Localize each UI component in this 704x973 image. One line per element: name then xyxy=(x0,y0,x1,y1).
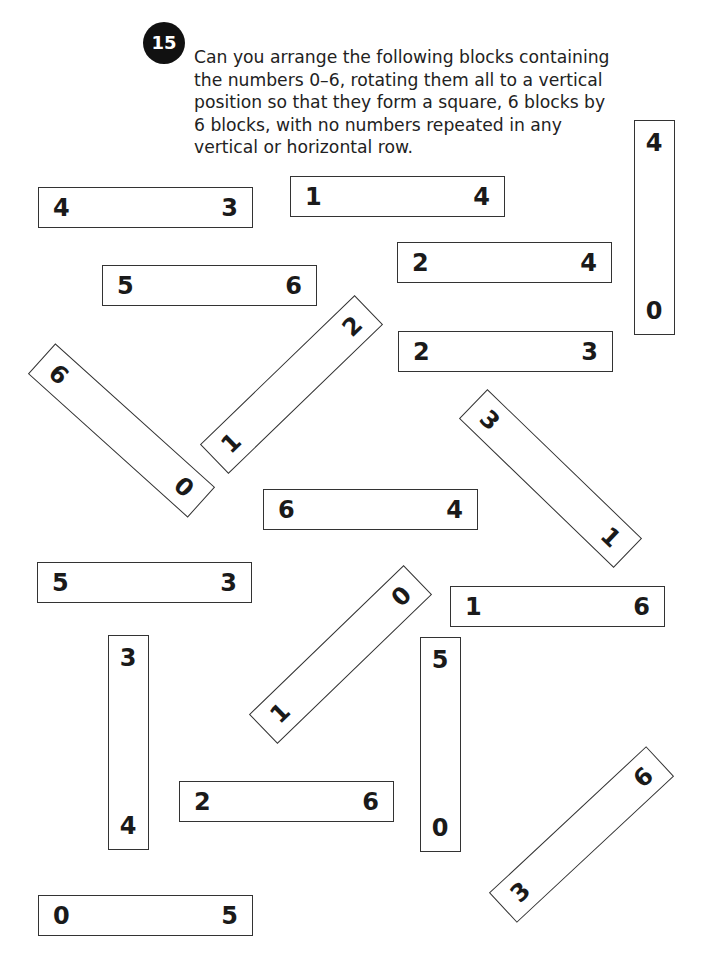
block-number: 0 xyxy=(387,582,416,611)
number-block[interactable]: 3 1 xyxy=(459,389,642,568)
number-block[interactable]: 5 6 xyxy=(102,265,317,306)
block-number: 2 xyxy=(412,251,429,275)
block-number: 2 xyxy=(194,790,211,814)
block-number: 2 xyxy=(413,340,430,364)
number-block[interactable]: 5 3 xyxy=(37,562,252,603)
block-number: 3 xyxy=(506,877,535,906)
block-number: 4 xyxy=(580,251,597,275)
block-number: 6 xyxy=(362,790,379,814)
number-block[interactable]: 1 6 xyxy=(450,586,665,627)
block-number: 3 xyxy=(476,406,505,435)
number-block[interactable]: 1 2 xyxy=(200,295,383,474)
block-number: 0 xyxy=(170,472,198,501)
block-number: 0 xyxy=(646,300,663,324)
block-number: 1 xyxy=(597,523,626,552)
block-number: 1 xyxy=(217,429,246,458)
number-block[interactable]: 1 4 xyxy=(290,176,505,217)
block-number: 3 xyxy=(221,196,238,220)
number-block[interactable]: 4 0 xyxy=(634,120,675,335)
number-block[interactable]: 3 6 xyxy=(489,746,674,923)
block-number: 1 xyxy=(266,699,295,728)
block-number: 4 xyxy=(120,815,137,839)
block-number: 6 xyxy=(278,498,295,522)
block-number: 5 xyxy=(432,648,449,672)
block-number: 0 xyxy=(432,817,449,841)
number-block[interactable]: 2 6 xyxy=(179,781,394,822)
block-number: 5 xyxy=(117,274,134,298)
block-number: 4 xyxy=(473,185,490,209)
block-number: 1 xyxy=(305,185,322,209)
number-block[interactable]: 4 3 xyxy=(38,187,253,228)
block-number: 6 xyxy=(629,763,658,792)
block-number: 5 xyxy=(52,571,69,595)
block-number: 6 xyxy=(633,595,650,619)
block-number: 6 xyxy=(285,274,302,298)
block-number: 6 xyxy=(45,360,73,389)
number-block[interactable]: 1 0 xyxy=(249,565,432,744)
block-number: 4 xyxy=(53,196,70,220)
block-number: 4 xyxy=(446,498,463,522)
number-block[interactable]: 5 0 xyxy=(420,637,461,852)
block-number: 0 xyxy=(53,904,70,928)
block-number: 2 xyxy=(338,312,367,341)
puzzle-number-badge: 15 xyxy=(143,22,185,64)
block-number: 1 xyxy=(465,595,482,619)
block-number: 4 xyxy=(646,131,663,155)
number-block[interactable]: 2 4 xyxy=(397,242,612,283)
number-block[interactable]: 0 5 xyxy=(38,895,253,936)
block-number: 3 xyxy=(220,571,237,595)
block-number: 3 xyxy=(120,646,137,670)
block-number: 5 xyxy=(221,904,238,928)
number-block[interactable]: 3 4 xyxy=(108,635,149,850)
puzzle-prompt: Can you arrange the following blocks con… xyxy=(194,46,614,159)
number-block[interactable]: 6 4 xyxy=(263,489,478,530)
number-block[interactable]: 2 3 xyxy=(398,331,613,372)
number-block[interactable]: 6 0 xyxy=(28,343,215,517)
block-number: 3 xyxy=(581,340,598,364)
